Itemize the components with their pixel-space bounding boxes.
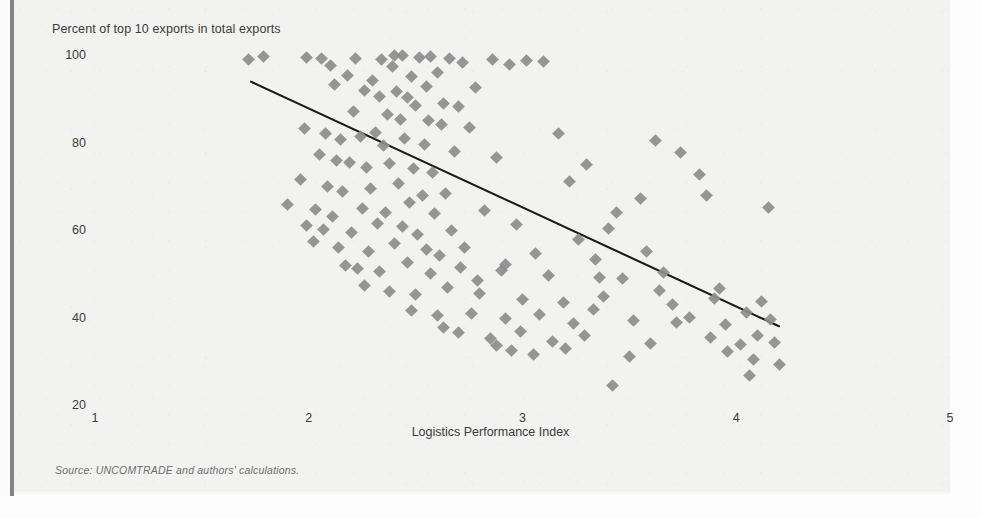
y-tick-label: 20 [72, 398, 86, 412]
scan-margin [0, 0, 10, 496]
trendline [95, 55, 950, 405]
figure-container: Percent of top 10 exports in total expor… [0, 0, 981, 518]
x-tick-label: 4 [733, 411, 740, 425]
x-axis-title: Logistics Performance Index [0, 425, 981, 439]
x-tick-label: 5 [947, 411, 954, 425]
plot-area: 20406080100 12345 [95, 55, 950, 405]
x-tick-label: 2 [305, 411, 312, 425]
y-tick-label: 40 [72, 311, 86, 325]
y-tick-label: 60 [72, 223, 86, 237]
y-tick-label: 80 [72, 136, 86, 150]
source-label: Source: [55, 464, 93, 476]
y-axis-title: Percent of top 10 exports in total expor… [52, 22, 281, 36]
page-bottom-fade [14, 489, 950, 496]
x-tick-label: 1 [92, 411, 99, 425]
source-text: UNCOMTRADE and authors' calculations. [93, 464, 300, 476]
x-tick-label: 3 [519, 411, 526, 425]
y-tick-label: 100 [65, 48, 86, 62]
source-note: Source: UNCOMTRADE and authors' calculat… [55, 464, 299, 476]
